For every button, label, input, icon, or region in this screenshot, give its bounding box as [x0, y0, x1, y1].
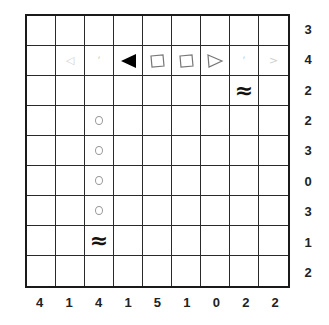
column-clue-8: 2	[261, 290, 290, 314]
grid-cell-r2-c2[interactable]	[85, 76, 114, 106]
faint-right-icon: >	[269, 55, 278, 66]
grid-cell-r5-c6[interactable]	[201, 166, 230, 196]
grid-cell-r5-c1[interactable]	[56, 166, 85, 196]
faint-mark-icon: ʼ	[97, 55, 101, 66]
grid-cell-r3-c4[interactable]	[143, 106, 172, 136]
faint-mark-icon: ʼ	[242, 55, 246, 66]
grid-cell-r2-c4[interactable]	[143, 76, 172, 106]
grid-cell-r2-c3[interactable]	[114, 76, 143, 106]
grid-cell-r4-c4[interactable]	[143, 136, 172, 166]
grid-cell-r6-c1[interactable]	[56, 196, 85, 226]
grid-cell-r4-c3[interactable]	[114, 136, 143, 166]
column-clue-6: 0	[202, 290, 231, 314]
grid-cell-r6-c7[interactable]	[230, 196, 259, 226]
grid-cell-r1-c2[interactable]: ʼ	[85, 46, 114, 76]
grid-cell-r4-c6[interactable]	[201, 136, 230, 166]
grid-cell-r5-c0[interactable]	[27, 166, 56, 196]
grid-cell-r1-c8[interactable]: >	[259, 46, 288, 76]
grid-cell-r6-c5[interactable]	[172, 196, 201, 226]
grid-cell-r2-c6[interactable]	[201, 76, 230, 106]
row-clue-2: 2	[298, 75, 318, 105]
grid-cell-r0-c5[interactable]	[172, 16, 201, 46]
row-clue-7: 1	[298, 227, 318, 257]
ship-end-left-icon	[120, 53, 137, 69]
column-clue-2: 4	[84, 290, 113, 314]
grid-cell-r1-c5[interactable]	[172, 46, 201, 76]
grid-cell-r2-c5[interactable]	[172, 76, 201, 106]
grid-cell-r2-c0[interactable]	[27, 76, 56, 106]
grid-cell-r2-c1[interactable]	[56, 76, 85, 106]
grid-cell-r6-c0[interactable]	[27, 196, 56, 226]
grid-cell-r1-c4[interactable]	[143, 46, 172, 76]
row-clue-8: 2	[298, 258, 318, 288]
grid-cell-r7-c2[interactable]: ≈	[85, 226, 114, 256]
grid-cell-r8-c3[interactable]	[114, 256, 143, 286]
column-clue-4: 5	[143, 290, 172, 314]
column-clue-5: 1	[172, 290, 201, 314]
water-icon: ≈	[90, 230, 108, 252]
grid-cell-r3-c0[interactable]	[27, 106, 56, 136]
grid-cell-r4-c0[interactable]	[27, 136, 56, 166]
grid-cell-r5-c5[interactable]	[172, 166, 201, 196]
row-clue-0: 3	[298, 14, 318, 44]
grid-cell-r1-c6[interactable]	[201, 46, 230, 76]
grid-cell-r6-c6[interactable]	[201, 196, 230, 226]
grid-cell-r2-c7[interactable]: ≈	[230, 76, 259, 106]
grid-cell-r3-c8[interactable]	[259, 106, 288, 136]
grid-cell-r4-c8[interactable]	[259, 136, 288, 166]
grid-cell-r8-c1[interactable]	[56, 256, 85, 286]
grid-cell-r8-c0[interactable]	[27, 256, 56, 286]
grid-cell-r0-c6[interactable]	[201, 16, 230, 46]
grid-cell-r5-c4[interactable]	[143, 166, 172, 196]
grid-cell-r8-c2[interactable]	[85, 256, 114, 286]
grid-cell-r4-c2[interactable]	[85, 136, 114, 166]
grid-cell-r7-c6[interactable]	[201, 226, 230, 256]
grid-cell-r8-c6[interactable]	[201, 256, 230, 286]
grid-cell-r4-c1[interactable]	[56, 136, 85, 166]
grid-cell-r0-c1[interactable]	[56, 16, 85, 46]
grid-cell-r3-c2[interactable]	[85, 106, 114, 136]
grid-cell-r0-c3[interactable]	[114, 16, 143, 46]
grid-cell-r8-c8[interactable]	[259, 256, 288, 286]
grid-cell-r3-c5[interactable]	[172, 106, 201, 136]
ship-middle-icon	[149, 53, 166, 69]
grid-cell-r0-c0[interactable]	[27, 16, 56, 46]
grid-cell-r6-c4[interactable]	[143, 196, 172, 226]
grid-cell-r6-c3[interactable]	[114, 196, 143, 226]
grid-cell-r0-c8[interactable]	[259, 16, 288, 46]
grid-cell-r3-c7[interactable]	[230, 106, 259, 136]
row-clue-6: 3	[298, 197, 318, 227]
grid-cell-r8-c7[interactable]	[230, 256, 259, 286]
grid-cell-r7-c4[interactable]	[143, 226, 172, 256]
grid-cell-r1-c3[interactable]	[114, 46, 143, 76]
grid-cell-r5-c7[interactable]	[230, 166, 259, 196]
grid-cell-r8-c5[interactable]	[172, 256, 201, 286]
grid-cell-r7-c5[interactable]	[172, 226, 201, 256]
grid-cell-r3-c3[interactable]	[114, 106, 143, 136]
grid-cell-r1-c0[interactable]	[27, 46, 56, 76]
grid-cell-r5-c8[interactable]	[259, 166, 288, 196]
grid-cell-r8-c4[interactable]	[143, 256, 172, 286]
grid-cell-r7-c3[interactable]	[114, 226, 143, 256]
grid-cell-r3-c1[interactable]	[56, 106, 85, 136]
grid-cell-r5-c2[interactable]	[85, 166, 114, 196]
grid-cell-r0-c2[interactable]	[85, 16, 114, 46]
grid-cell-r7-c0[interactable]	[27, 226, 56, 256]
puzzle-grid: ◁ʼʼ>≈≈	[25, 14, 290, 288]
grid-cell-r3-c6[interactable]	[201, 106, 230, 136]
grid-cell-r7-c1[interactable]	[56, 226, 85, 256]
grid-cell-r0-c7[interactable]	[230, 16, 259, 46]
grid-cell-r6-c2[interactable]	[85, 196, 114, 226]
grid-cell-r4-c5[interactable]	[172, 136, 201, 166]
grid-cell-r7-c7[interactable]	[230, 226, 259, 256]
grid-cell-r2-c8[interactable]	[259, 76, 288, 106]
grid-cell-r0-c4[interactable]	[143, 16, 172, 46]
grid-cell-r5-c3[interactable]	[114, 166, 143, 196]
column-clues: 414151022	[25, 290, 290, 314]
grid-cell-r4-c7[interactable]	[230, 136, 259, 166]
grid-cell-r7-c8[interactable]	[259, 226, 288, 256]
grid-cell-r1-c7[interactable]: ʼ	[230, 46, 259, 76]
row-clue-1: 4	[298, 44, 318, 74]
grid-cell-r6-c8[interactable]	[259, 196, 288, 226]
grid-cell-r1-c1[interactable]: ◁	[56, 46, 85, 76]
